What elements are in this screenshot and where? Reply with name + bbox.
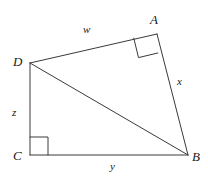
- segment-DA: [30, 34, 157, 63]
- segment-AB: [157, 34, 188, 155]
- vertex-label-A: A: [150, 13, 158, 26]
- segment-DB-diagonal: [30, 63, 188, 155]
- vertex-label-C: C: [13, 149, 22, 162]
- vertex-label-D: D: [13, 55, 22, 68]
- geometry-figure: A B C D w x z y: [0, 0, 208, 181]
- figure-canvas: [0, 0, 208, 181]
- right-angle-at-A-icon: [134, 38, 158, 57]
- side-label-w: w: [83, 24, 90, 35]
- side-label-z: z: [12, 107, 16, 118]
- side-label-y: y: [110, 161, 115, 172]
- side-label-x: x: [177, 76, 182, 87]
- right-angle-at-C-icon: [30, 137, 48, 155]
- vertex-label-B: B: [192, 150, 200, 163]
